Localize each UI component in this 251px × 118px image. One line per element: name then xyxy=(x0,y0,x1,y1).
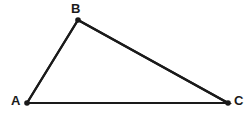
vertex-dot-b xyxy=(75,17,81,23)
vertex-dot-a xyxy=(24,100,30,106)
vertex-label-b: B xyxy=(71,2,80,15)
figure-background xyxy=(0,0,251,118)
vertex-dot-c xyxy=(225,100,231,106)
vertex-label-a: A xyxy=(11,94,20,107)
triangle-figure: A B C xyxy=(0,0,251,118)
vertex-label-c: C xyxy=(234,94,243,107)
triangle-diagram-svg xyxy=(0,0,251,118)
